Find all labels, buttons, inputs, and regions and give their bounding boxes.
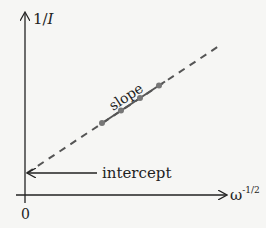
plot: 1/I intercept 0 ω-1/2 slope bbox=[0, 0, 266, 228]
diagram: 1/I intercept 0 ω-1/2 slope bbox=[0, 0, 266, 228]
data-point bbox=[156, 83, 162, 89]
x-axis-label: ω-1/2 bbox=[230, 185, 260, 204]
intercept-label: intercept bbox=[102, 164, 171, 182]
y-axis-label: 1/I bbox=[33, 10, 55, 28]
origin-label: 0 bbox=[21, 206, 30, 222]
data-point bbox=[99, 120, 105, 126]
